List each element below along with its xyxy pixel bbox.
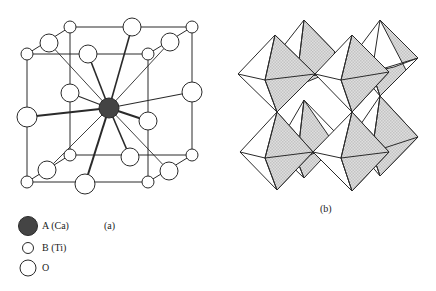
caption-a: (a) (104, 220, 115, 231)
legend-label-o: O (42, 262, 49, 273)
legend-label-a: A (Ca) (42, 220, 69, 231)
a-atom-center (99, 98, 119, 118)
legend-b-symbol (23, 243, 34, 254)
caption-b: (b) (320, 203, 332, 214)
legend-a-symbol (19, 217, 38, 236)
octahedra-framework (238, 20, 418, 191)
legend-o-symbol (20, 260, 36, 276)
legend-label-b: B (Ti) (42, 242, 66, 253)
